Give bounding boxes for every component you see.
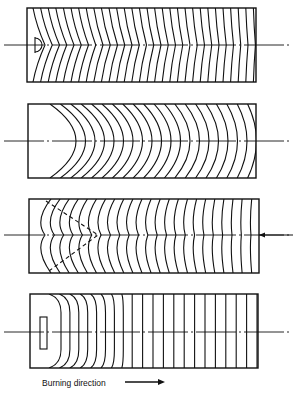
burning-direction-label: Burning direction <box>42 378 106 388</box>
right-arrow-icon <box>125 379 165 385</box>
burning-direction-diagram <box>0 0 297 398</box>
panel-3 <box>4 199 293 273</box>
panel-2 <box>4 104 290 178</box>
panel-4 <box>4 294 290 368</box>
panel-1 <box>4 8 290 82</box>
